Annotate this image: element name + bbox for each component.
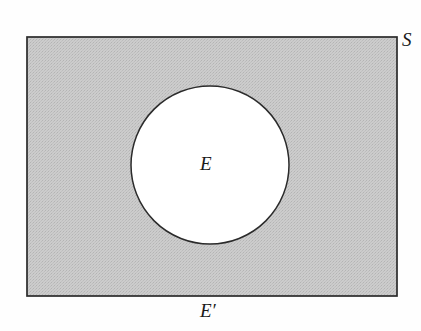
venn-diagram-figure: S E E′ xyxy=(0,0,421,331)
complement-label: E′ xyxy=(200,301,216,320)
set-e-label: E xyxy=(200,154,212,173)
universal-set-label: S xyxy=(402,30,412,49)
